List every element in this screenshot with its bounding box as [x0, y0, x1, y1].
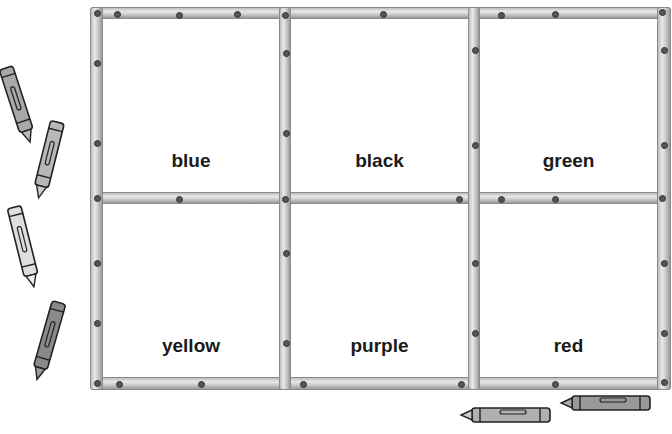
nail-icon [472, 330, 479, 337]
nail-icon [283, 340, 290, 347]
nail-icon [498, 196, 505, 203]
cell-black[interactable]: black [291, 19, 468, 192]
nail-icon [300, 381, 307, 388]
cell-red[interactable]: red [480, 204, 657, 377]
nail-icon [661, 330, 668, 337]
cell-label: green [543, 150, 595, 192]
nail-icon [661, 260, 668, 267]
nail-icon [282, 196, 289, 203]
cell-yellow[interactable]: yellow [103, 204, 279, 377]
nail-icon [661, 142, 668, 149]
nail-icon [472, 142, 479, 149]
crayon-icon[interactable] [6, 200, 42, 295]
cell-label: black [355, 150, 404, 192]
cell-label: blue [171, 150, 210, 192]
nail-icon [472, 47, 479, 54]
nail-icon [283, 50, 290, 57]
cell-label: yellow [162, 335, 220, 377]
nail-icon [176, 12, 183, 19]
cell-green[interactable]: green [480, 19, 657, 192]
nail-icon [661, 379, 668, 386]
nail-icon [198, 381, 205, 388]
nail-icon [472, 260, 479, 267]
nail-icon [458, 381, 465, 388]
nail-icon [94, 320, 101, 327]
nail-icon [282, 12, 289, 19]
nail-icon [176, 196, 183, 203]
nail-icon [116, 381, 123, 388]
nail-icon [283, 130, 290, 137]
nail-icon [552, 381, 559, 388]
cell-blue[interactable]: blue [103, 19, 279, 192]
nail-icon [552, 11, 559, 18]
frame-bottom-bar [90, 377, 671, 390]
nail-icon [94, 195, 101, 202]
crayon-icon[interactable] [458, 405, 553, 425]
nail-icon [659, 9, 666, 16]
nail-icon [114, 11, 121, 18]
nail-icon [234, 11, 241, 18]
nail-icon [283, 250, 290, 257]
nail-icon [94, 380, 101, 387]
nail-icon [94, 60, 101, 67]
crayon-icon[interactable] [558, 393, 653, 413]
nail-icon [94, 260, 101, 267]
nail-icon [659, 195, 666, 202]
nail-icon [661, 47, 668, 54]
nail-icon [456, 196, 463, 203]
nail-icon [552, 196, 559, 203]
cell-purple[interactable]: purple [291, 204, 468, 377]
cell-label: red [554, 335, 584, 377]
crayon-icon[interactable] [30, 295, 66, 387]
nail-icon [498, 12, 505, 19]
nail-icon [94, 140, 101, 147]
crayon-icon[interactable] [30, 115, 66, 205]
nail-icon [94, 10, 101, 17]
nail-icon [380, 11, 387, 18]
cell-label: purple [350, 335, 408, 377]
